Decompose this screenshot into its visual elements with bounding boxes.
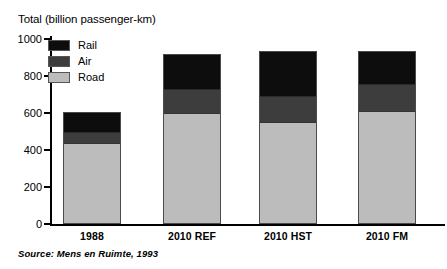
bar-segment-road xyxy=(164,113,220,223)
bar-segment-air xyxy=(164,89,220,114)
legend-label-rail: Rail xyxy=(78,40,97,51)
bar-segment-air xyxy=(64,132,120,143)
x-axis-label-2010-hst: 2010 HST xyxy=(243,230,333,242)
legend-item-air: Air xyxy=(48,54,143,69)
source-note: Source: Mens en Ruimte, 1993 xyxy=(18,248,158,259)
bar-1988 xyxy=(63,112,121,224)
bar-2010-ref xyxy=(163,54,221,224)
legend-item-road: Road xyxy=(48,70,143,85)
bar-segment-road xyxy=(260,122,316,223)
legend-swatch-rail-icon xyxy=(48,40,70,51)
bar-segment-air xyxy=(359,84,415,111)
x-axis-line xyxy=(50,224,445,226)
legend-item-rail: Rail xyxy=(48,38,143,53)
bar-segment-air xyxy=(260,96,316,123)
bars-layer xyxy=(0,0,447,224)
bar-segment-rail xyxy=(359,52,415,84)
bar-segment-rail xyxy=(260,52,316,96)
bar-segment-rail xyxy=(164,55,220,89)
legend-label-road: Road xyxy=(78,72,104,83)
bar-segment-rail xyxy=(64,113,120,132)
x-axis-label-2010-fm: 2010 FM xyxy=(342,230,432,242)
legend-swatch-road-icon xyxy=(48,72,70,83)
bar-segment-road xyxy=(359,111,415,223)
legend-swatch-air-icon xyxy=(48,56,70,67)
x-axis-label-1988: 1988 xyxy=(47,230,137,242)
stacked-bar-chart-figure: Total (billion passenger-km) 02004006008… xyxy=(0,0,447,269)
chart-legend: Rail Air Road xyxy=(48,38,143,86)
bar-2010-hst xyxy=(259,51,317,224)
legend-label-air: Air xyxy=(78,56,91,67)
bar-2010-fm xyxy=(358,51,416,224)
bar-segment-road xyxy=(64,143,120,223)
x-axis-label-2010-ref: 2010 REF xyxy=(147,230,237,242)
